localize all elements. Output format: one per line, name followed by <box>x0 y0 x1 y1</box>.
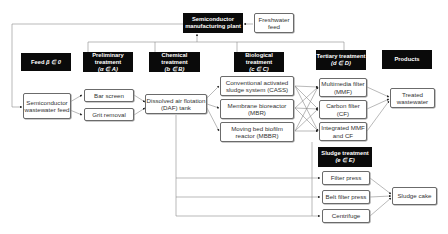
node-sludge-cake: Sludge cake <box>392 187 437 205</box>
stage-header-preliminary: Preliminary treatment (α ∈ A) <box>83 52 133 72</box>
freshwater-feed: Freshwater feed <box>254 13 294 33</box>
stage-header-tertiary: Tertiary treatment (d ∈ D) <box>316 50 366 70</box>
stage-tag: (d ∈ D) <box>331 60 351 67</box>
node-bar-screen: Bar screen <box>84 89 134 102</box>
node-centrifuge: Centrifuge <box>322 209 370 223</box>
stage-tag: (α ∈ A) <box>98 66 118 73</box>
stage-label: Preliminary treatment <box>83 52 133 66</box>
stage-label: Tertiary treatment <box>317 53 366 60</box>
process-flow-diagram: Semiconductor manufacturing plant Freshw… <box>0 0 448 234</box>
stage-header-products: Products <box>382 50 432 69</box>
stage-tag: (e ∈ E) <box>335 157 354 164</box>
node-mbbr: Moving bed biofilm reactor (MBBR) <box>220 122 294 142</box>
node-grit-removal: Grit removal <box>84 108 134 121</box>
stage-tag: (b ∈ B) <box>165 66 185 73</box>
node-mmf: Multimedia filter (MMF) <box>319 78 367 97</box>
node-belt-filter-press: Belt filter press <box>322 190 370 204</box>
stage-label: Biological treatment <box>234 52 284 66</box>
node-integrated-mmf-cf: Integrated MMF and CF <box>319 122 367 141</box>
node-wastewater-feed: Semiconductor wastewater feed <box>23 93 71 119</box>
stage-label: Chemical treatment <box>149 52 200 66</box>
stage-header-feed: Feed β ∈ 0 <box>21 53 71 71</box>
stage-tag: β ∈ 0 <box>46 59 61 66</box>
node-carbon-filter: Carbon filter (CF) <box>319 100 367 119</box>
stage-header-chemical: Chemical treatment (b ∈ B) <box>149 52 200 72</box>
stage-tag: (c ∈ C) <box>249 66 269 73</box>
semiconductor-plant: Semiconductor manufacturing plant <box>183 13 243 33</box>
node-cass: Conventional activated sludge system (CA… <box>220 76 294 96</box>
stage-header-biological: Biological treatment (c ∈ C) <box>234 52 284 72</box>
stage-header-sludge: Sludge treatment (e ∈ E) <box>318 147 372 167</box>
node-daf-tank: Dissolved air flotation (DAF) tank <box>145 94 207 114</box>
node-treated-wastewater: Treated wastewater <box>390 88 435 108</box>
node-mbr: Membrane bioreactor (MBR) <box>220 99 294 119</box>
node-filter-press: Filter press <box>322 171 370 185</box>
stage-label: Sludge treatment <box>321 150 368 157</box>
stage-label: Feed <box>31 59 45 66</box>
